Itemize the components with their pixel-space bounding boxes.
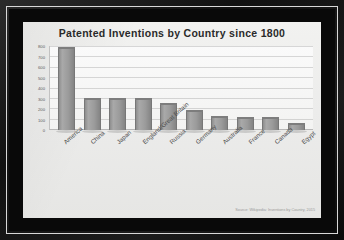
bar-slot [55,46,78,130]
bar[interactable] [186,111,203,130]
y-tick-label: 100 [38,117,45,122]
y-axis: 8007006005004003002001000 [25,46,47,130]
bar-slot [132,46,155,130]
x-tick-label: Japan [115,129,132,145]
x-tick-label: Egypt [300,129,316,145]
y-tick-label: 600 [38,65,45,70]
y-tick-label: 700 [38,54,45,59]
chart-canvas: Patented Inventions by Country since 180… [23,22,321,201]
bar-series [49,46,313,130]
bar-slot [259,46,282,130]
bar-slot [234,46,257,130]
y-tick-label: 400 [38,86,45,91]
picture-frame: Patented Inventions by Country since 180… [0,0,344,201]
y-tick-label: 800 [38,44,45,49]
bar-slot [285,46,308,130]
bar-slot [208,46,231,130]
bar-slot [183,46,206,130]
y-tick-label: 500 [38,75,45,80]
bar[interactable] [58,48,75,130]
frame-inner-mat: Patented Inventions by Country since 180… [9,9,335,201]
y-tick-label: 0 [43,128,45,133]
bar[interactable] [109,99,126,131]
y-tick-label: 200 [38,107,45,112]
bar[interactable] [135,99,152,130]
plot-wrapper [49,46,313,130]
bar-slot [106,46,129,130]
y-tick-label: 300 [38,96,45,101]
chart-title: Patented Inventions by Country since 180… [23,27,321,39]
bar-slot [81,46,104,130]
x-axis: AmericaChinaJapanEngland/Great BritainRu… [49,132,313,178]
bar[interactable] [262,118,279,130]
x-tick-label: China [89,129,106,145]
bar[interactable] [84,99,101,131]
